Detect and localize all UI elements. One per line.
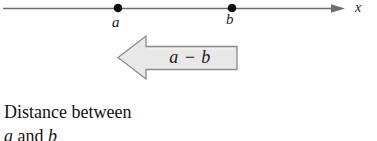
caption-var-b: b	[48, 126, 57, 141]
caption-text: Distance between a and b	[4, 101, 244, 141]
caption-var-a: a	[4, 126, 13, 141]
axis-label-x: x	[355, 1, 361, 15]
caption-line-1: Distance between	[4, 101, 244, 125]
point-label-b: b	[226, 12, 234, 27]
caption-conjunction: and	[13, 126, 48, 141]
block-arrow-expression: a − b	[152, 48, 228, 66]
distance-diagram-figure: a b x a − b Distance between a and b	[0, 0, 377, 141]
axis-arrowhead-icon	[331, 4, 345, 13]
caption-line-2: a and b	[4, 125, 244, 141]
point-label-a: a	[112, 15, 120, 30]
point-dot-a	[114, 4, 123, 13]
